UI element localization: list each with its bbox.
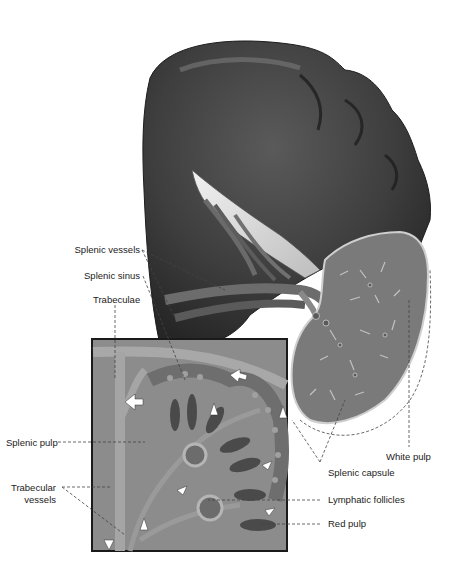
magnified-inset: [92, 339, 287, 551]
label-splenic-pulp: Splenic pulp: [6, 437, 58, 448]
label-red-pulp: Red pulp: [328, 518, 366, 529]
label-trabecular-vessels-line1: Trabecular: [11, 482, 56, 493]
label-lymphatic-follicles: Lymphatic follicles: [328, 494, 405, 505]
label-splenic-vessels: Splenic vessels: [75, 244, 140, 255]
label-trabecular-vessels-line2: vessels: [24, 494, 56, 505]
spleen-illustration: [0, 0, 456, 569]
label-splenic-capsule: Splenic capsule: [328, 467, 395, 478]
label-white-pulp: White pulp: [386, 451, 431, 462]
label-splenic-sinus: Splenic sinus: [84, 270, 140, 281]
label-trabeculae: Trabeculae: [93, 294, 140, 305]
